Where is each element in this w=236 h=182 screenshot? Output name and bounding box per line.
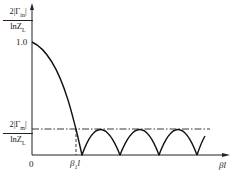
x-axis-label: βl (219, 160, 226, 170)
y-tick-1: 1.0 (16, 37, 27, 47)
x-axis-arrow-icon (222, 153, 230, 157)
x-tick-origin: 0 (29, 159, 34, 169)
chart-canvas (0, 0, 236, 182)
y-axis-label: 2|Γin| lnZL (3, 6, 33, 34)
x-tick-beta1: β1l (70, 158, 80, 172)
y-tick-gamma-m: 2|Γm| lnZL (3, 119, 33, 147)
gamma-in-curve (32, 42, 205, 155)
